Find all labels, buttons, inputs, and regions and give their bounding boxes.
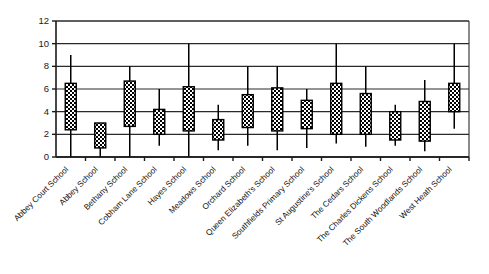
box-rect bbox=[124, 81, 135, 126]
box-plot-item bbox=[390, 105, 401, 146]
box-rect bbox=[183, 87, 194, 131]
x-tick-label: Abbey Court School bbox=[12, 165, 70, 223]
box-plot-chart: 024681012 Abbey Court SchoolAbbey School… bbox=[0, 0, 489, 274]
box-plot-item bbox=[95, 123, 106, 157]
box-rect bbox=[242, 95, 253, 128]
box-series bbox=[65, 44, 460, 157]
box-rect bbox=[419, 101, 430, 141]
box-plot-item bbox=[360, 66, 371, 146]
box-plot-item bbox=[449, 44, 460, 129]
y-tick-label-8: 8 bbox=[44, 60, 49, 71]
y-tick-label-4: 4 bbox=[44, 106, 49, 117]
box-rect bbox=[65, 83, 76, 129]
box-plot-item bbox=[183, 44, 194, 157]
box-plot-item bbox=[301, 89, 312, 148]
box-rect bbox=[331, 83, 342, 134]
y-tick-label-12: 12 bbox=[38, 15, 49, 26]
box-plot-item bbox=[272, 66, 283, 150]
x-tick-label: The Cedars School bbox=[309, 165, 365, 221]
box-rect bbox=[213, 120, 224, 140]
grid-lines bbox=[56, 21, 469, 157]
x-axis-labels: Abbey Court SchoolAbbey SchoolBethany Sc… bbox=[12, 165, 453, 248]
box-rect bbox=[95, 123, 106, 148]
box-plot-item bbox=[124, 66, 135, 157]
box-rect bbox=[449, 83, 460, 111]
x-axis bbox=[56, 157, 469, 161]
box-plot-item bbox=[331, 44, 342, 144]
y-tick-label-6: 6 bbox=[44, 83, 49, 94]
chart-canvas: 024681012 Abbey Court SchoolAbbey School… bbox=[0, 0, 489, 274]
y-tick-label-2: 2 bbox=[44, 128, 49, 139]
box-rect bbox=[272, 88, 283, 131]
y-tick-label-0: 0 bbox=[44, 151, 49, 162]
box-plot-item bbox=[242, 66, 253, 145]
box-rect bbox=[154, 109, 165, 134]
box-rect bbox=[390, 112, 401, 140]
box-plot-item bbox=[65, 55, 76, 157]
box-plot-item bbox=[154, 89, 165, 146]
box-rect bbox=[360, 94, 371, 135]
box-plot-item bbox=[419, 80, 430, 151]
y-axis-ticks: 024681012 bbox=[38, 15, 56, 162]
y-tick-label-10: 10 bbox=[38, 38, 49, 49]
x-tick-label: West Heath School bbox=[398, 165, 454, 221]
box-rect bbox=[301, 100, 312, 128]
